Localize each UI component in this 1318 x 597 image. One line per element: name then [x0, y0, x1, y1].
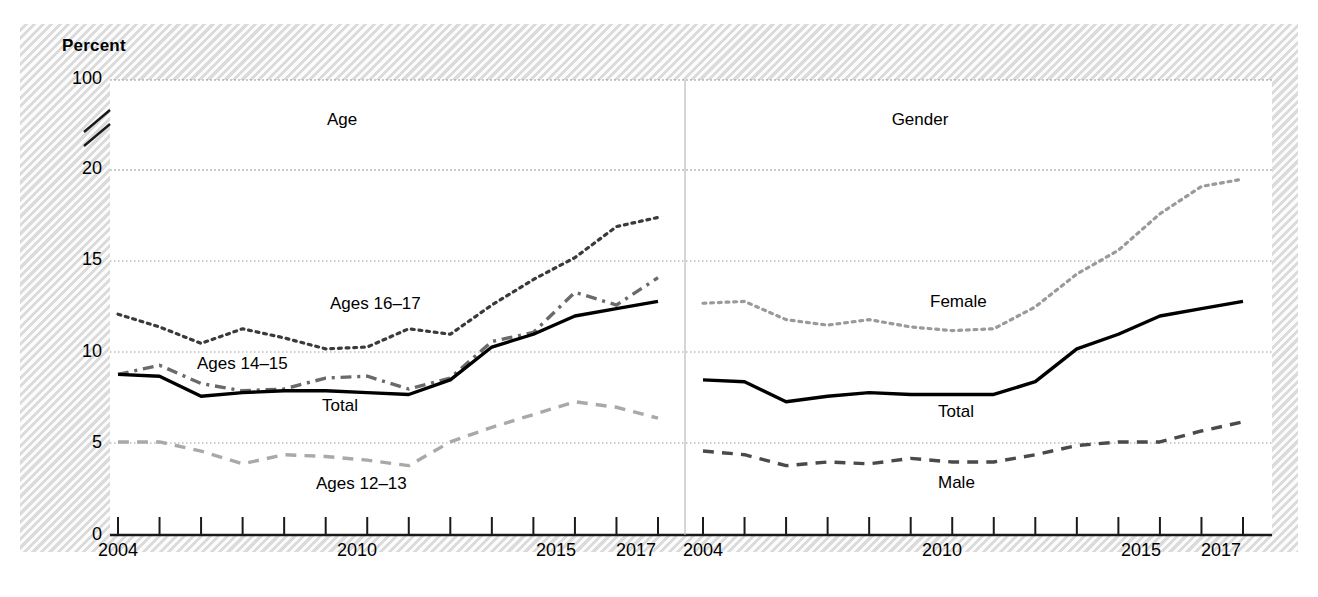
- series-line-male: [703, 422, 1243, 466]
- series-line-ages-14-15: [118, 278, 658, 391]
- x-axis-ticks-group: [118, 517, 1243, 535]
- series-line-ages-12-13: [118, 402, 658, 466]
- chart-svg: [0, 0, 1318, 597]
- series-line-female: [703, 179, 1243, 330]
- series-lines-group: [118, 179, 1243, 466]
- series-line-ages-16-17: [118, 217, 658, 348]
- y-axis-break-icon: [84, 110, 110, 146]
- axes-group: [110, 80, 1272, 535]
- chart-figure: Percent 100 20 15 10 5 0 Age Gender 2004…: [0, 0, 1318, 597]
